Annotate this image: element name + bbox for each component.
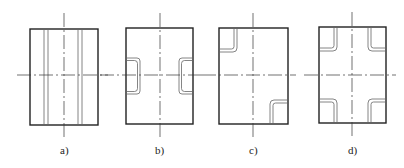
- part-outline: [219, 28, 288, 124]
- figure-a-label: a): [60, 144, 69, 157]
- corner-pocket-line-tl-1: [319, 27, 334, 48]
- diagram-canvas: a) b) c) d): [0, 0, 404, 168]
- figure-a: [17, 13, 108, 139]
- corner-pocket-line-tl-1: [219, 28, 234, 49]
- side-notch-line-left-1: [126, 61, 138, 92]
- corner-pocket-line-bl-1: [319, 102, 334, 123]
- corner-pocket-line-tr-1: [371, 27, 386, 48]
- figure-d: [304, 12, 396, 138]
- side-notch-line-right-1: [182, 61, 194, 92]
- corner-pocket-line-br-1: [273, 103, 288, 124]
- figure-d-label: d): [348, 144, 358, 157]
- figure-b-label: b): [155, 144, 165, 157]
- corner-pocket-line-br-1: [371, 102, 386, 123]
- part-outline: [126, 28, 193, 124]
- figure-b: [100, 13, 203, 138]
- figure-c-label: c): [249, 144, 258, 157]
- figure-c: [202, 13, 296, 138]
